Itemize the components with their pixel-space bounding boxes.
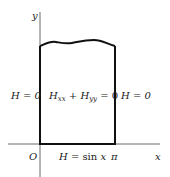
origin-label: O: [29, 152, 37, 162]
wavy-top-edge: [40, 40, 115, 46]
bottom-boundary-condition: H = sin x: [59, 152, 106, 162]
left-boundary-condition: H = 0: [11, 91, 41, 101]
right-boundary-condition: H = 0: [121, 91, 151, 101]
y-axis-label: y: [32, 11, 38, 21]
pi-tick-label: π: [111, 152, 118, 162]
laplace-equation: Hxx + Hyy = 0: [49, 91, 118, 103]
x-axis-label: x: [155, 152, 161, 162]
